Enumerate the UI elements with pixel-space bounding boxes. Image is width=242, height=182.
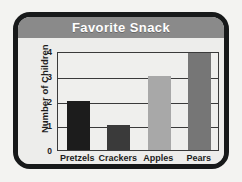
bar xyxy=(188,52,211,150)
bars-layer xyxy=(58,53,218,150)
y-axis-tick-labels: 01234 xyxy=(40,52,52,151)
x-axis-tick-label: Pears xyxy=(186,154,211,163)
x-axis-tick-label: Pretzels xyxy=(60,154,95,163)
plot-area xyxy=(57,52,219,151)
bar xyxy=(67,101,90,151)
x-axis-tick-label: Crackers xyxy=(98,154,137,163)
page-title: Favorite Snack xyxy=(72,21,170,34)
bar xyxy=(148,76,171,150)
y-axis-tick-label: 0 xyxy=(40,147,52,156)
chart-title-band: Favorite Snack xyxy=(18,17,224,38)
chart-card: Favorite Snack Number of Children 01234 … xyxy=(13,12,229,169)
y-axis-tick-label: 4 xyxy=(40,48,52,57)
x-axis-tick-labels: PretzelsCrackersApplesPears xyxy=(57,154,219,168)
chart-body: Number of Children 01234 PretzelsCracker… xyxy=(18,38,224,164)
y-axis-tick-label: 2 xyxy=(40,97,52,106)
y-axis-tick-label: 3 xyxy=(40,73,52,82)
y-axis-tick-label: 1 xyxy=(40,122,52,131)
bar xyxy=(107,125,130,150)
x-axis-tick-label: Apples xyxy=(143,154,173,163)
